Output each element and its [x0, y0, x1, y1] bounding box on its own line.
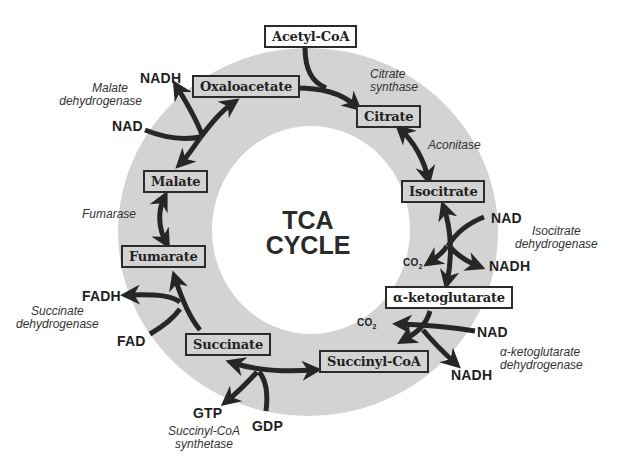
co2-text: CO — [403, 257, 418, 268]
enzyme-line: synthetase — [168, 438, 240, 451]
enzyme-line: dehydrogenase — [52, 95, 142, 108]
tca-cycle-diagram: TCA CYCLE Acetyl-CoA Oxaloacetate Citrat… — [0, 0, 624, 464]
enzyme-line: synthase — [370, 81, 418, 94]
metabolite-malate: Malate — [143, 170, 208, 193]
enzyme-succinyl-coa-synthetase: Succinyl-CoA synthetase — [168, 425, 240, 451]
enzyme-akg-dehydrogenase: α-ketoglutarate dehydrogenase — [500, 346, 583, 372]
cofactor-scs-gtp: GTP — [193, 405, 222, 421]
cofactor-sdh-fadh: FADH — [82, 288, 121, 304]
enzyme-fumarase: Fumarase — [82, 208, 136, 221]
enzyme-aconitase: Aconitase — [428, 139, 481, 152]
metabolite-fumarate: Fumarate — [121, 245, 206, 268]
co2-text: CO — [357, 317, 372, 328]
metabolite-isocitrate: Isocitrate — [401, 180, 485, 203]
cofactor-sdh-fad: FAD — [117, 333, 146, 349]
cofactor-scs-gdp: GDP — [252, 418, 283, 434]
title-line-1: TCA — [238, 208, 378, 233]
metabolite-oxaloacetate: Oxaloacetate — [192, 75, 300, 98]
enzyme-isocitrate-dehydrogenase: Isocitrate dehydrogenase — [515, 225, 598, 251]
cofactor-idh-nadh: NADH — [489, 258, 530, 274]
enzyme-line: dehydrogenase — [16, 318, 99, 331]
enzyme-malate-dehydrogenase: Malate dehydrogenase — [52, 82, 142, 108]
enzyme-line: dehydrogenase — [515, 238, 598, 251]
metabolite-succinyl-coa: Succinyl-CoA — [319, 350, 429, 373]
metabolite-acetyl-coa: Acetyl-CoA — [264, 25, 357, 48]
co2-subscript: 2 — [418, 263, 422, 270]
cofactor-idh-co2: CO2 — [403, 257, 423, 270]
enzyme-line: Aconitase — [428, 139, 481, 152]
enzyme-succinate-dehydrogenase: Succinate dehydrogenase — [16, 305, 99, 331]
cofactor-mdh-nad: NAD — [112, 118, 143, 134]
cycle-title: TCA CYCLE — [238, 208, 378, 258]
enzyme-line: dehydrogenase — [500, 359, 583, 372]
enzyme-line: Fumarase — [82, 208, 136, 221]
co2-subscript: 2 — [372, 323, 376, 330]
enzyme-citrate-synthase: Citrate synthase — [370, 68, 418, 94]
metabolite-citrate: Citrate — [356, 105, 421, 128]
cofactor-akg-nadh: NADH — [451, 367, 492, 383]
cofactor-akg-co2: CO2 — [357, 317, 377, 330]
cofactor-akg-nad: NAD — [477, 324, 508, 340]
cofactor-mdh-nadh: NADH — [140, 70, 181, 86]
cofactor-idh-nad: NAD — [491, 210, 522, 226]
metabolite-succinate: Succinate — [185, 333, 271, 356]
metabolite-alpha-ketoglutarate: α-ketoglutarate — [385, 286, 513, 309]
title-line-2: CYCLE — [238, 233, 378, 258]
